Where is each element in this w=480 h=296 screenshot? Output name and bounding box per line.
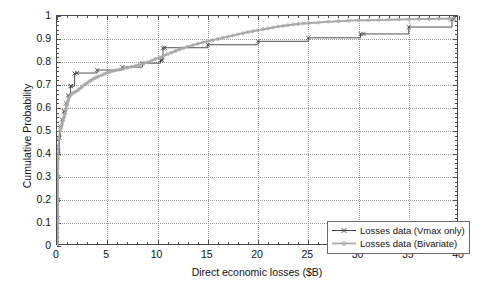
y-tick-label: 0.4 bbox=[36, 147, 51, 159]
legend[interactable]: Losses data (Vmax only)Losses data (Biva… bbox=[327, 221, 470, 254]
legend-sample-bivariate bbox=[331, 237, 357, 250]
y-tick-label: 0.7 bbox=[36, 78, 51, 90]
legend-label: Losses data (Bivariate) bbox=[360, 237, 457, 250]
y-tick-label: 0.8 bbox=[36, 55, 51, 67]
y-tick-label: 0 bbox=[45, 239, 51, 251]
y-tick-label: 0.6 bbox=[36, 101, 51, 113]
y-tick-label: 0.3 bbox=[36, 170, 51, 182]
y-tick-label: 0.2 bbox=[36, 193, 51, 205]
y-tick-label: 1 bbox=[45, 9, 51, 21]
y-tick-label: 0.1 bbox=[36, 216, 51, 228]
legend-entry[interactable]: Losses data (Bivariate) bbox=[331, 237, 465, 250]
legend-entry[interactable]: Losses data (Vmax only) bbox=[331, 224, 465, 237]
legend-label: Losses data (Vmax only) bbox=[360, 224, 465, 237]
y-axis-label: Cumulative Probability bbox=[21, 66, 33, 206]
y-tick-label: 0.5 bbox=[36, 124, 51, 136]
legend-sample-vmax-only bbox=[331, 224, 357, 237]
figure: 0510152025303540 00.10.20.30.40.50.60.70… bbox=[0, 0, 480, 296]
y-tick-label: 0.9 bbox=[36, 32, 51, 44]
x-axis-label: Direct economic losses ($B) bbox=[56, 266, 458, 278]
